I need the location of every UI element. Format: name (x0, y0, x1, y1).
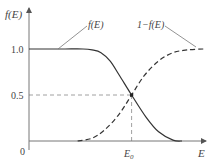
intersection-point (130, 93, 134, 97)
annotation-f: f(E) (88, 19, 104, 31)
annotation-1-minus-f: 1−f(E) (137, 19, 165, 31)
y-tick-label-0.5: 0.5 (11, 90, 24, 101)
y-tick-label-0: 0 (20, 146, 25, 157)
fermi-dirac-chart: f(E) E 1.0 0.5 0 E0 f(E) 1−f(E) (0, 0, 219, 162)
series-one-minus-f-line (78, 49, 204, 141)
x-tick-label-e0: E0 (123, 148, 134, 161)
y-tick-label-1: 1.0 (11, 44, 24, 55)
annotation-f-leader (58, 26, 87, 49)
y-axis-label: f(E) (5, 8, 22, 21)
annotation-1-minus-f-leader (165, 26, 196, 47)
x-axis-label: E (197, 147, 205, 159)
